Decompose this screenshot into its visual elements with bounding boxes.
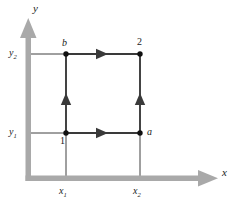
point-2[interactable] xyxy=(137,51,142,56)
x1-tick-label: x1 xyxy=(59,186,67,199)
state-points xyxy=(63,51,142,135)
y-axis-bar xyxy=(26,30,32,181)
seg-1-b-arrow-up-icon xyxy=(61,93,71,105)
x2-tick-label: x2 xyxy=(133,186,141,199)
point-a[interactable] xyxy=(137,130,142,135)
diagram-canvas xyxy=(0,0,236,207)
y2-tick-label: y2 xyxy=(9,48,17,61)
point-a-label: a xyxy=(147,127,152,137)
seg-b-2-arrow-right-icon xyxy=(96,49,108,59)
seg-1-a-arrow-right-icon xyxy=(96,128,108,138)
y-axis-arrow-up-icon xyxy=(20,18,37,38)
seg-a-2-arrow-up-icon xyxy=(135,93,145,105)
x1-tick-subscript: 1 xyxy=(63,191,66,198)
y1-tick-subscript: 1 xyxy=(13,132,16,139)
y2-tick-subscript: 2 xyxy=(13,53,16,60)
x2-tick-subscript: 2 xyxy=(137,191,140,198)
axis-lines xyxy=(20,18,218,187)
point-1-label: 1 xyxy=(60,136,65,146)
guide-lines xyxy=(29,54,140,179)
x-axis-arrow-right-icon xyxy=(198,170,218,187)
y-axis-label: y xyxy=(33,3,38,14)
point-b[interactable] xyxy=(63,51,68,56)
path-arrowheads xyxy=(61,49,145,138)
process-path xyxy=(66,54,140,133)
y1-tick-label: y1 xyxy=(9,127,17,140)
x-axis-label: x xyxy=(222,167,227,178)
point-2-label: 2 xyxy=(137,37,142,47)
x-axis-bar xyxy=(26,176,206,182)
point-b-label: b xyxy=(62,38,67,48)
